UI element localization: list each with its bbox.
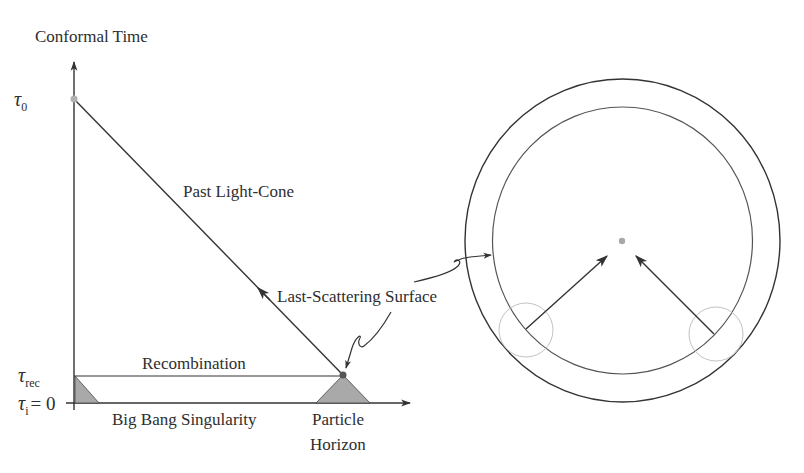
observer-dot xyxy=(619,238,625,244)
big-bang-label: Big Bang Singularity xyxy=(112,410,257,429)
tick-tau-i: τi= 0 xyxy=(18,392,55,418)
past-light-cone-line xyxy=(74,99,343,375)
tick-tau-rec: τrec xyxy=(18,364,40,390)
emission-point-dot xyxy=(340,372,347,379)
particle-horizon-label-2: Horizon xyxy=(310,435,366,454)
light-cone-diagram: Conformal Time τ0 τrec τi= 0 Past Light-… xyxy=(0,0,804,473)
pointer-arrow-to-sphere xyxy=(414,255,491,282)
y-axis-label: Conformal Time xyxy=(35,27,148,46)
spacetime-diagram: Conformal Time τ0 τrec τi= 0 Past Light-… xyxy=(14,27,491,454)
past-light-cone-label: Past Light-Cone xyxy=(183,182,294,201)
particle-horizon-wedge xyxy=(316,375,370,403)
initial-horizon-wedge xyxy=(75,376,99,403)
pointer-arrow-to-emission xyxy=(346,312,391,368)
light-cone-arrow xyxy=(258,288,270,300)
ray-right-arrow xyxy=(636,256,714,334)
ray-left-arrow xyxy=(526,256,607,329)
tick-tau0: τ0 xyxy=(14,88,27,114)
observer-now-dot xyxy=(71,96,78,103)
sky-sphere-diagram xyxy=(465,79,780,402)
recombination-label: Recombination xyxy=(142,354,246,373)
particle-horizon-label-1: Particle xyxy=(312,410,364,429)
last-scattering-label: Last-Scattering Surface xyxy=(277,287,437,306)
